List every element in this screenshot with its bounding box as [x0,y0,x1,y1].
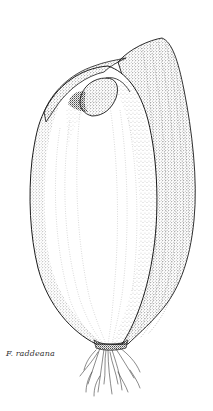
roots [80,348,140,396]
species-caption: F. raddeana [6,349,55,358]
